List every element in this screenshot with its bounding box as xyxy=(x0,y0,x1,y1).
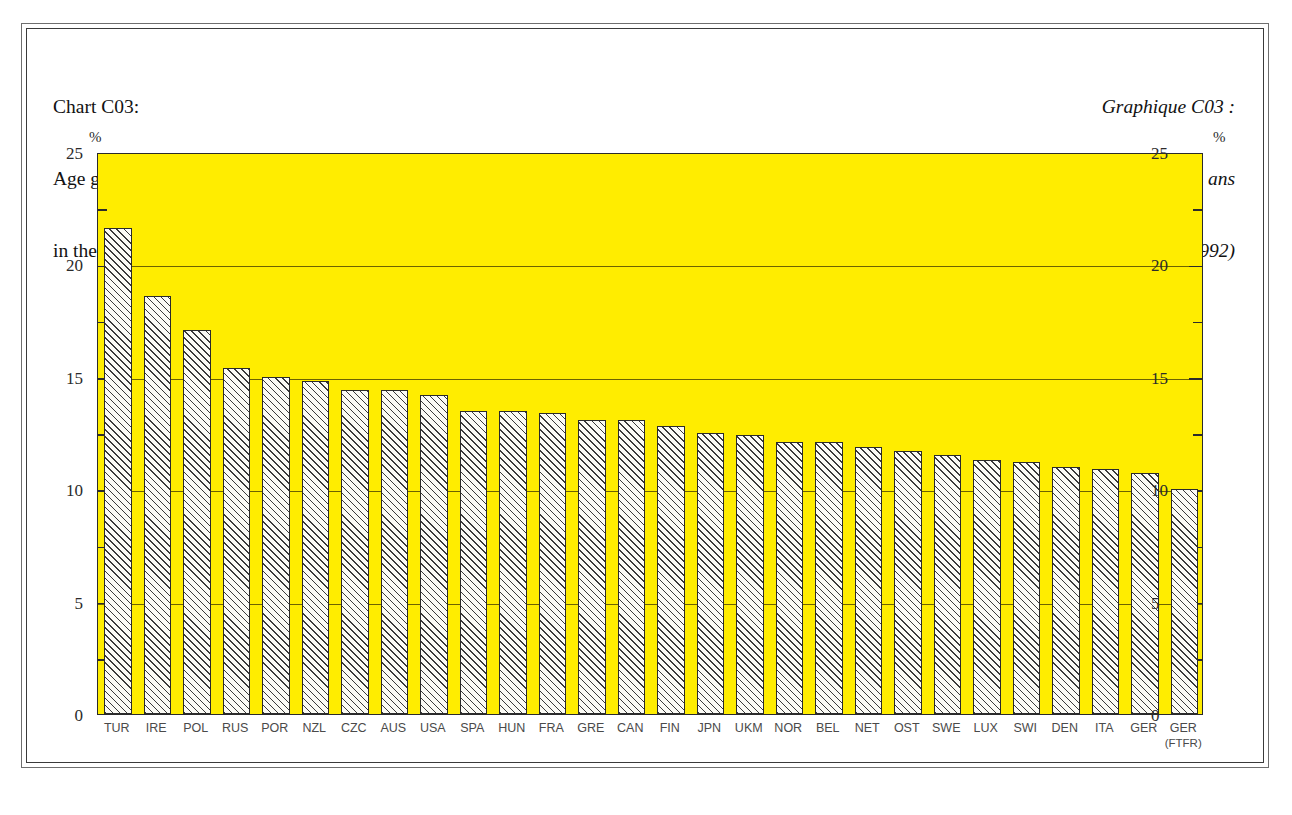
x-axis-label-pol-2: POL xyxy=(176,721,216,736)
bar-jpn-15 xyxy=(697,433,725,714)
bar-ire-1 xyxy=(144,296,172,714)
bar-series xyxy=(98,154,1202,714)
x-axis-label-czc-6: CZC xyxy=(334,721,374,736)
x-label-main: FIN xyxy=(660,721,680,735)
x-label-main: UKM xyxy=(735,721,763,735)
x-axis-label-aus-7: AUS xyxy=(374,721,414,736)
x-label-main: NZL xyxy=(302,721,326,735)
bar-aus-7 xyxy=(381,390,409,714)
bar-gre-12 xyxy=(578,420,606,714)
bar-swe-21 xyxy=(934,455,962,714)
y-tick-label-left-20: 20 xyxy=(43,257,83,274)
y-tick-label-left-5: 5 xyxy=(43,595,83,612)
x-label-main: USA xyxy=(420,721,446,735)
bar-pol-2 xyxy=(183,330,211,714)
x-label-main: HUN xyxy=(498,721,525,735)
y-tick-label-right-15: 15 xyxy=(1151,370,1191,387)
bar-swi-23 xyxy=(1013,462,1041,714)
x-label-main: GRE xyxy=(577,721,604,735)
x-axis-label-hun-10: HUN xyxy=(492,721,532,736)
x-axis-label-nor-17: NOR xyxy=(769,721,809,736)
figure-outer-frame: Chart C03: Age group 5-14 years in the t… xyxy=(21,23,1269,768)
x-label-main: GER xyxy=(1170,721,1197,735)
x-label-main: POL xyxy=(183,721,208,735)
x-axis-label-ita-25: ITA xyxy=(1085,721,1125,736)
x-axis-label-fra-11: FRA xyxy=(532,721,572,736)
title-french-line-1: Graphique C03 : xyxy=(922,95,1235,119)
x-axis-label-fin-14: FIN xyxy=(650,721,690,736)
bar-fin-14 xyxy=(657,426,685,714)
x-label-main: SWE xyxy=(932,721,960,735)
x-axis-label-bel-18: BEL xyxy=(808,721,848,736)
bar-czc-6 xyxy=(341,390,369,714)
bar-por-4 xyxy=(262,377,290,714)
x-axis-label-gre-12: GRE xyxy=(571,721,611,736)
x-axis-label-can-13: CAN xyxy=(611,721,651,736)
x-axis-label-usa-8: USA xyxy=(413,721,453,736)
y-tick-label-left-0: 0 xyxy=(43,707,83,724)
bar-ost-20 xyxy=(894,451,922,714)
x-label-main: RUS xyxy=(222,721,248,735)
y-tick-label-right-20: 20 xyxy=(1151,257,1191,274)
x-axis-label-swe-21: SWE xyxy=(927,721,967,736)
y-tick-label-left-15: 15 xyxy=(43,370,83,387)
bar-den-24 xyxy=(1052,467,1080,714)
x-axis-label-jpn-15: JPN xyxy=(690,721,730,736)
x-axis-label-lux-22: LUX xyxy=(966,721,1006,736)
y-tick-label-left-25: 25 xyxy=(43,145,83,162)
bar-lux-22 xyxy=(973,460,1001,714)
bar-rus-3 xyxy=(223,368,251,714)
x-label-main: CZC xyxy=(341,721,367,735)
y-tick-label-right-10: 10 xyxy=(1151,482,1191,499)
bar-bel-18 xyxy=(815,442,843,714)
y-tick-label-right-25: 25 xyxy=(1151,145,1191,162)
x-label-main: CAN xyxy=(617,721,643,735)
y-tick-label-right-5: 5 xyxy=(1151,595,1191,612)
y-axis-unit-left: % xyxy=(89,129,102,146)
x-axis-label-ger-27: GER(FTFR) xyxy=(1164,721,1204,751)
x-label-main: SPA xyxy=(460,721,484,735)
x-label-main: LUX xyxy=(974,721,998,735)
x-axis-label-spa-9: SPA xyxy=(453,721,493,736)
bar-can-13 xyxy=(618,420,646,714)
bar-tur-0 xyxy=(104,228,132,714)
x-axis-label-ost-20: OST xyxy=(887,721,927,736)
x-axis-label-ire-1: IRE xyxy=(137,721,177,736)
x-axis-label-net-19: NET xyxy=(848,721,888,736)
bar-fra-11 xyxy=(539,413,567,714)
x-label-main: TUR xyxy=(104,721,130,735)
x-label-main: ITA xyxy=(1095,721,1114,735)
x-axis-label-ger-26: GER xyxy=(1124,721,1164,736)
plot-area xyxy=(97,153,1203,715)
bar-nzl-5 xyxy=(302,381,330,714)
x-label-main: OST xyxy=(894,721,920,735)
x-axis-label-den-24: DEN xyxy=(1045,721,1085,736)
x-label-sub: (FTFR) xyxy=(1164,736,1204,751)
x-axis-label-rus-3: RUS xyxy=(216,721,256,736)
bar-nor-17 xyxy=(776,442,804,714)
bar-ukm-16 xyxy=(736,435,764,714)
x-label-main: IRE xyxy=(146,721,167,735)
bar-net-19 xyxy=(855,447,883,715)
x-label-main: GER xyxy=(1130,721,1157,735)
x-label-main: NOR xyxy=(774,721,802,735)
y-tick-label-left-10: 10 xyxy=(43,482,83,499)
x-label-main: NET xyxy=(855,721,880,735)
title-english-line-1: Chart C03: xyxy=(53,95,286,119)
x-label-main: SWI xyxy=(1013,721,1037,735)
x-axis-label-swi-23: SWI xyxy=(1006,721,1046,736)
bar-spa-9 xyxy=(460,411,488,714)
x-axis-label-nzl-5: NZL xyxy=(295,721,335,736)
bar-hun-10 xyxy=(499,411,527,714)
x-label-main: POR xyxy=(261,721,288,735)
x-axis-label-tur-0: TUR xyxy=(97,721,137,736)
x-axis-label-por-4: POR xyxy=(255,721,295,736)
x-label-main: BEL xyxy=(816,721,840,735)
bar-ita-25 xyxy=(1092,469,1120,714)
y-axis-unit-right: % xyxy=(1213,129,1226,146)
x-label-main: FRA xyxy=(539,721,564,735)
x-axis-labels: TURIREPOLRUSPORNZLCZCAUSUSASPAHUNFRAGREC… xyxy=(97,721,1203,769)
x-label-main: AUS xyxy=(380,721,406,735)
x-label-main: JPN xyxy=(697,721,721,735)
bar-usa-8 xyxy=(420,395,448,714)
